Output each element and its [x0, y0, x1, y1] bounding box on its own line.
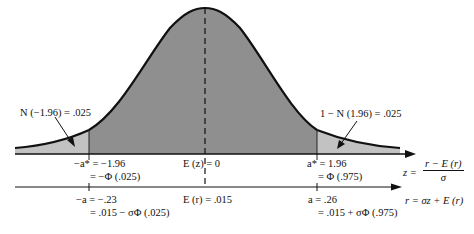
z-formula-denominator: σ: [423, 171, 464, 183]
r-axis-arrow-icon: [391, 184, 402, 191]
z-left-label-1: −a* = −1.96: [74, 158, 125, 170]
r-left-label-1: −a = −.23: [76, 194, 117, 206]
r-center-label: E (r) = .015: [183, 194, 232, 206]
center-region: [89, 8, 317, 154]
z-left-label-2: = −Φ (.025): [90, 171, 140, 183]
r-right-label-2: = .015 + σΦ (.975): [318, 207, 397, 219]
z-center-label: E (z) = 0: [183, 158, 220, 170]
z-right-label-2: = Φ (.975): [318, 171, 362, 183]
r-right-label-1: a = .26: [308, 194, 337, 206]
right-tail-label: 1 − N (1.96) = .025: [320, 108, 402, 120]
z-formula-fraction: r − E (r) σ: [423, 158, 464, 183]
z-formula-lhs: z =: [403, 167, 417, 179]
z-formula-numerator: r − E (r): [423, 158, 464, 171]
r-left-label-2: = .015 − σΦ (.025): [90, 207, 169, 219]
z-axis-arrow-icon: [405, 150, 416, 158]
r-formula: r = σz + E (r): [405, 195, 463, 207]
left-tail-label: N (−1.96) = .025: [20, 107, 91, 119]
z-right-label-1: a* = 1.96: [307, 158, 346, 170]
